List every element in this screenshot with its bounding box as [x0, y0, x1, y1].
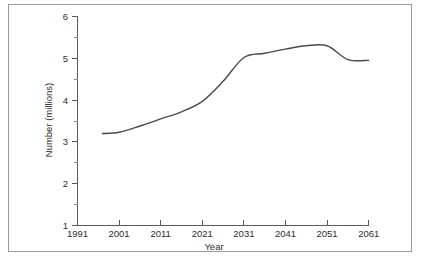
y-tick-label-2: 2	[63, 178, 68, 189]
x-axis-major-ticks	[78, 220, 369, 226]
x-tick-label-2001: 2001	[109, 228, 130, 239]
x-tick-label-1991: 1991	[67, 228, 88, 239]
y-tick-label-3: 3	[63, 136, 68, 147]
y-axis-title: Number (millions)	[43, 83, 54, 157]
y-axis-minor-ticks	[74, 37, 78, 204]
x-tick-label-2061: 2061	[358, 228, 379, 239]
x-axis-title: Year	[204, 241, 223, 252]
chart-figure: 6 5 4 3 2 1 1991 2001 2011 2021 2031 204…	[0, 0, 425, 262]
x-tick-label-2021: 2021	[192, 228, 213, 239]
x-tick-label-2041: 2041	[275, 228, 296, 239]
y-tick-label-6: 6	[63, 11, 68, 22]
x-tick-label-2011: 2011	[150, 228, 170, 239]
x-tick-label-2031: 2031	[233, 228, 254, 239]
data-series-line	[102, 45, 368, 134]
x-tick-label-2051: 2051	[317, 228, 338, 239]
line-chart: 6 5 4 3 2 1 1991 2001 2011 2021 2031 204…	[0, 0, 425, 262]
y-tick-label-5: 5	[63, 53, 68, 64]
y-tick-label-4: 4	[63, 95, 68, 106]
